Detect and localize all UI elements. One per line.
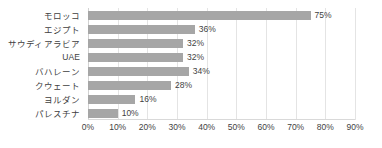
gridline — [355, 8, 356, 120]
bar-row: 10% — [88, 106, 355, 120]
category-label: UAE — [0, 50, 84, 64]
category-label: エジプト — [0, 22, 84, 36]
bar-series: 75%36%32%32%34%28%16%10% — [88, 8, 355, 120]
axis-baseline — [88, 119, 355, 120]
bar-row: 16% — [88, 92, 355, 106]
x-tick-label: 20% — [139, 122, 156, 132]
bar — [88, 25, 195, 34]
category-label: パレスチナ — [0, 106, 84, 120]
bar — [88, 109, 118, 118]
bar — [88, 81, 171, 90]
bar-row: 36% — [88, 22, 355, 36]
bar-value-label: 75% — [315, 10, 332, 20]
plot-area: 75%36%32%32%34%28%16%10% — [88, 8, 355, 120]
category-label: サウディアラビア — [0, 36, 84, 50]
bar-chart: モロッコエジプトサウディアラビアUAEバハレーンクウェートヨルダンパレスチナ 7… — [0, 0, 382, 148]
x-tick-label: 80% — [317, 122, 334, 132]
x-tick-label: 90% — [346, 122, 363, 132]
bar — [88, 95, 135, 104]
category-axis: モロッコエジプトサウディアラビアUAEバハレーンクウェートヨルダンパレスチナ — [0, 8, 84, 120]
bar-row: 32% — [88, 50, 355, 64]
x-tick-label: 0% — [82, 122, 94, 132]
bar — [88, 39, 183, 48]
bar — [88, 11, 311, 20]
bar-row: 34% — [88, 64, 355, 78]
x-tick-label: 10% — [109, 122, 126, 132]
bar-value-label: 32% — [187, 38, 204, 48]
bar-value-label: 36% — [199, 24, 216, 34]
x-axis: 0%10%20%30%40%50%60%70%80%90% — [88, 122, 355, 136]
bar-value-label: 16% — [139, 94, 156, 104]
bar-value-label: 28% — [175, 80, 192, 90]
bar-row: 28% — [88, 78, 355, 92]
bar-value-label: 10% — [122, 108, 139, 118]
category-label: モロッコ — [0, 8, 84, 22]
bar-value-label: 34% — [193, 66, 210, 76]
x-tick-label: 40% — [198, 122, 215, 132]
category-label: クウェート — [0, 78, 84, 92]
bar-row: 32% — [88, 36, 355, 50]
x-tick-label: 70% — [287, 122, 304, 132]
bar — [88, 53, 183, 62]
x-tick-label: 60% — [257, 122, 274, 132]
category-label: バハレーン — [0, 64, 84, 78]
bar — [88, 67, 189, 76]
x-tick-label: 30% — [168, 122, 185, 132]
category-label: ヨルダン — [0, 92, 84, 106]
x-tick-label: 50% — [228, 122, 245, 132]
bar-value-label: 32% — [187, 52, 204, 62]
bar-row: 75% — [88, 8, 355, 22]
